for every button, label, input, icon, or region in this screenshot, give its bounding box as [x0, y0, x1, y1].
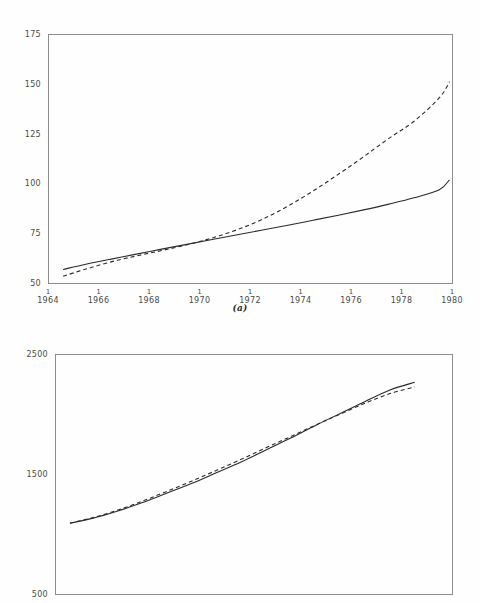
- x-tick-period-label: 1: [399, 288, 403, 296]
- y-tick-label: 75: [30, 229, 41, 238]
- chart-b-canvas: 50015002500: [0, 330, 480, 603]
- y-tick-label: 175: [25, 30, 41, 39]
- figure-page: 5075100125150175119641196611968119701197…: [0, 0, 480, 603]
- series-line-solid: [63, 180, 449, 270]
- x-tick-period-label: 1: [147, 288, 151, 296]
- x-tick-period-label: 1: [197, 288, 201, 296]
- x-tick-period-label: 1: [298, 288, 302, 296]
- series-line-dashed: [70, 387, 415, 523]
- x-tick-period-label: 1: [46, 288, 50, 296]
- y-tick-label: 50: [30, 279, 41, 288]
- y-tick-label: 2500: [26, 350, 48, 359]
- y-tick-label: 125: [25, 130, 41, 139]
- y-tick-label: 500: [32, 590, 48, 599]
- x-tick-period-label: 1: [96, 288, 100, 296]
- series-line-dashed: [63, 82, 449, 276]
- plot-frame: [48, 34, 452, 283]
- y-tick-label: 1500: [26, 470, 48, 479]
- figure-b: 50015002500: [0, 330, 480, 603]
- x-tick-period-label: 1: [349, 288, 353, 296]
- chart-a-canvas: 5075100125150175119641196611968119701197…: [0, 0, 480, 322]
- figure-a-caption: (a): [0, 303, 480, 313]
- x-tick-period-label: 1: [248, 288, 252, 296]
- y-tick-label: 100: [25, 179, 41, 188]
- y-tick-label: 150: [25, 80, 41, 89]
- figure-a: 5075100125150175119641196611968119701197…: [0, 0, 480, 322]
- x-tick-period-label: 1: [450, 288, 454, 296]
- plot-frame: [55, 354, 452, 594]
- series-line-solid: [70, 382, 415, 523]
